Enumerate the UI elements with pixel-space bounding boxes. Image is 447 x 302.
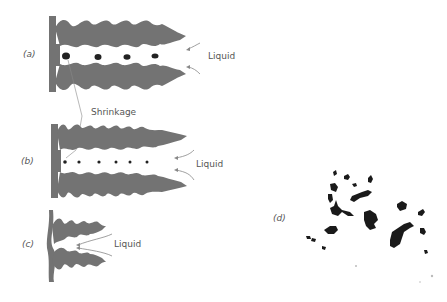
dendrite-panel-a: [49, 16, 186, 92]
dendrite-panel-b: [51, 124, 187, 198]
panel-label-a: (a): [23, 50, 36, 59]
panel-label-c: (c): [22, 240, 34, 249]
shrinkage-label: Shrinkage: [91, 108, 136, 117]
arrowheads-c: [76, 243, 80, 250]
liquid-label-b: Liquid: [196, 160, 223, 169]
panel-label-d: (d): [273, 214, 286, 223]
dendrite-panel-c: [47, 210, 106, 282]
shrinkage-pores-b: [63, 160, 148, 164]
liquid-label-c: Liquid: [114, 240, 141, 249]
micrograph-faint-marks: [355, 265, 433, 283]
arrowheads-a: [186, 47, 190, 69]
shrinkage-pores-a: [62, 53, 159, 61]
diagram-canvas: [0, 0, 447, 302]
micrograph-porosity-d: [306, 170, 428, 254]
liquid-label-a: Liquid: [208, 52, 235, 61]
liquid-flow-arrows-c: [78, 234, 112, 256]
arrowheads-b: [174, 156, 178, 172]
panel-label-b: (b): [21, 157, 34, 166]
liquid-flow-arrows-b: [176, 150, 194, 180]
